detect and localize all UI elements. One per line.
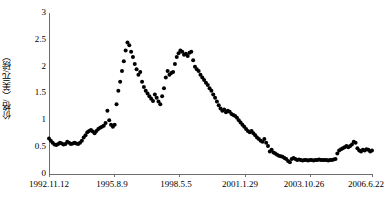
data-point: [160, 94, 164, 98]
data-point: [266, 144, 270, 148]
data-point: [122, 59, 126, 63]
data-point: [189, 50, 193, 54]
data-point: [118, 80, 122, 84]
data-point: [151, 99, 155, 103]
data-point: [158, 102, 162, 106]
data-point: [140, 80, 144, 84]
data-point: [171, 70, 175, 74]
data-point: [191, 58, 195, 62]
data-point: [215, 100, 219, 104]
data-point: [116, 89, 120, 93]
data-point: [370, 148, 374, 152]
data-point: [129, 50, 133, 54]
data-point: [135, 67, 139, 71]
data-point: [155, 96, 159, 100]
data-point: [164, 75, 168, 79]
data-point: [262, 137, 266, 141]
data-point: [142, 85, 146, 89]
data-point: [104, 121, 108, 125]
data-point: [107, 118, 111, 122]
data-point: [127, 43, 131, 47]
data-point: [213, 96, 217, 100]
data-point: [209, 89, 213, 93]
data-point: [120, 69, 124, 73]
data-point: [113, 123, 117, 127]
data-point: [124, 49, 128, 53]
data-point: [105, 109, 109, 113]
data-point: [115, 102, 119, 106]
data-point-group: [47, 41, 374, 165]
data-point: [175, 55, 179, 59]
data-point: [162, 86, 166, 90]
data-point: [173, 62, 177, 66]
data-point: [131, 55, 135, 59]
data-point: [354, 141, 358, 145]
data-point: [166, 69, 170, 73]
data-point: [197, 69, 201, 73]
data-point: [334, 157, 338, 161]
data-point: [138, 70, 142, 74]
data-point: [133, 62, 137, 66]
